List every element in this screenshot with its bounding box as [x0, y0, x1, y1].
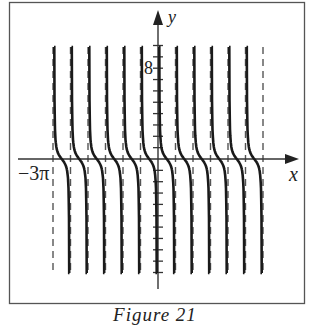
- curve-branch: [89, 47, 105, 273]
- curve-branch: [142, 47, 158, 273]
- curve-branch: [212, 47, 228, 273]
- curve-branch: [159, 47, 175, 273]
- curve-branch: [72, 47, 88, 273]
- curve-branch: [107, 47, 123, 273]
- curve-branch: [177, 47, 193, 273]
- y-axis-arrow-icon: [153, 10, 163, 25]
- curve-branch: [124, 47, 140, 273]
- x-axis-label: x: [288, 163, 298, 185]
- y-tick-label: 8: [144, 58, 153, 78]
- figure-caption: Figure 21: [0, 304, 310, 326]
- curve-branch: [54, 47, 70, 273]
- y-axis-label: y: [166, 7, 176, 27]
- curve-branch: [194, 47, 210, 273]
- x-tick-label: −3π: [18, 162, 49, 184]
- curve-branch: [229, 47, 245, 273]
- curve-branch: [247, 47, 263, 273]
